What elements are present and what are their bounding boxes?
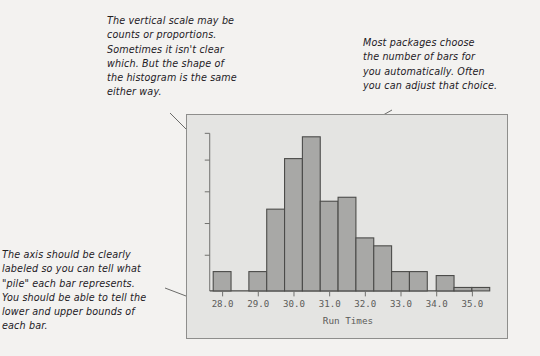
figure-root: The vertical scale may be counts or prop… [0, 0, 540, 356]
y-axis [205, 133, 210, 291]
x-tick-label: 33.0 [390, 299, 412, 309]
histogram-bar [338, 197, 356, 291]
x-axis-title: Run Times [323, 315, 373, 326]
annotation-vertical-scale: The vertical scale may be counts or prop… [107, 14, 272, 100]
x-axis-tick-labels: 28.0 29.0 30.0 31.0 32.0 33.0 34.0 35.0 [212, 299, 484, 309]
histogram-plot-frame: 28.0 29.0 30.0 31.0 32.0 33.0 34.0 35.0 … [186, 114, 508, 339]
histogram-bar [302, 137, 320, 291]
annotation-axis-label: The axis should be clearly labeled so yo… [2, 248, 187, 334]
x-tick-label: 29.0 [247, 299, 269, 309]
histogram-bar [320, 201, 338, 291]
histogram-bar [356, 238, 374, 291]
histogram-bar [472, 287, 490, 290]
histogram-bar [374, 246, 392, 291]
histogram-bar [409, 272, 427, 291]
x-tick-label: 34.0 [426, 299, 448, 309]
annotation-bar-count: Most packages choose the number of bars … [363, 36, 540, 93]
histogram-bars [213, 137, 490, 291]
histogram-bar [392, 272, 410, 291]
x-tick-label: 28.0 [212, 299, 234, 309]
histogram-plot-area: 28.0 29.0 30.0 31.0 32.0 33.0 34.0 35.0 … [187, 115, 507, 338]
histogram-bar [249, 272, 267, 291]
x-tick-label: 30.0 [283, 299, 305, 309]
histogram-bar [213, 272, 231, 291]
x-tick-label: 31.0 [319, 299, 341, 309]
histogram-bar [285, 159, 303, 291]
histogram-bar [454, 287, 472, 290]
histogram-bar [436, 276, 454, 291]
histogram-bar [267, 209, 285, 291]
x-tick-label: 35.0 [461, 299, 483, 309]
x-tick-label: 32.0 [354, 299, 376, 309]
x-axis-ticks [223, 291, 473, 296]
